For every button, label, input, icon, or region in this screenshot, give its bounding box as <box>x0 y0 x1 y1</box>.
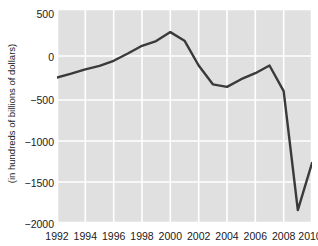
x-tick-label: 1994 <box>74 230 97 242</box>
x-tick-label: 2002 <box>187 230 210 242</box>
x-tick-label: 2004 <box>215 230 238 242</box>
x-tick-label: 2006 <box>244 230 267 242</box>
x-axis-tick-labels: 1992 1994 1996 1998 2000 2002 2004 2006 … <box>0 0 318 246</box>
x-tick-label: 2010 <box>298 230 318 242</box>
x-tick-label: 1998 <box>130 230 153 242</box>
chart-figure: (in hundreds of billions of dollars) 500… <box>0 0 318 246</box>
x-tick-label: 1992 <box>45 230 68 242</box>
x-tick-label: 2008 <box>272 230 295 242</box>
x-tick-label: 2000 <box>159 230 182 242</box>
x-tick-label: 1996 <box>102 230 125 242</box>
